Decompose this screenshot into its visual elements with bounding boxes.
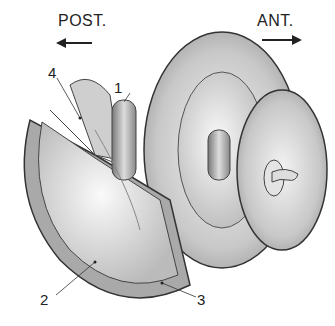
- illustration: [0, 0, 335, 326]
- callout-1: 1: [114, 80, 122, 95]
- posterior-arrow-icon: [56, 38, 92, 48]
- anterior-arrow-icon: [262, 35, 302, 45]
- callout-3: 3: [197, 292, 205, 307]
- apical-disk: [237, 90, 327, 250]
- anterior-label: ANT.: [257, 12, 294, 30]
- posterior-label: POST.: [58, 12, 107, 30]
- callout-2: 2: [40, 292, 48, 307]
- callout-4: 4: [48, 65, 56, 80]
